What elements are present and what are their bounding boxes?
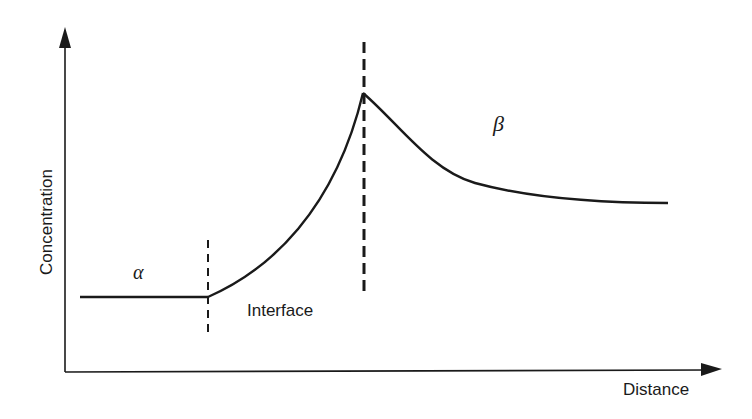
beta-profile xyxy=(363,93,668,203)
y-axis-arrow-icon xyxy=(59,27,71,48)
interface-label: Interface xyxy=(247,301,313,320)
x-axis-label: Distance xyxy=(623,380,689,399)
x-axis-arrow-icon xyxy=(701,363,722,376)
x-axis xyxy=(65,370,708,372)
y-axis-label: Concentration xyxy=(37,169,56,275)
alpha-label: α xyxy=(133,261,144,283)
concentration-diagram: Concentration Distance α β Interface xyxy=(0,0,752,419)
interface-profile xyxy=(208,93,363,297)
beta-label: β xyxy=(492,111,504,136)
